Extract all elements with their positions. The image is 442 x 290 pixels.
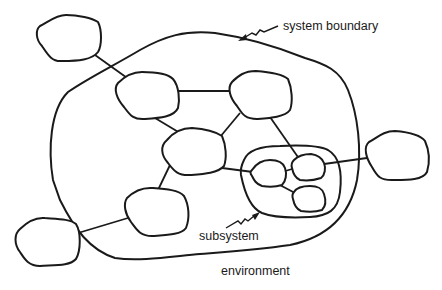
link-sys-bottom-left-to-env-bottom-left: [78, 218, 128, 233]
node-env-bottom-left: [16, 218, 80, 266]
subsystem-pointer: [226, 212, 260, 228]
link-sys-center-to-sub-left: [222, 168, 253, 172]
link-sys-top-right-to-sub-top-right: [270, 117, 300, 160]
link-sys-center-to-sys-bottom-left: [158, 165, 170, 190]
node-sys-bottom-left: [125, 188, 189, 236]
system-boundary-pointer: [238, 26, 278, 41]
label-subsystem: subsystem: [199, 229, 259, 243]
node-sub-bottom-right: [292, 186, 325, 212]
link-sub-top-right-to-env-right: [324, 158, 367, 164]
node-env-right: [366, 131, 429, 180]
arrowhead-icon: [252, 212, 260, 220]
node-env-top-left: [37, 15, 101, 61]
node-sys-top-left: [116, 72, 179, 119]
system-diagram: system boundary subsystem environment: [0, 0, 442, 290]
node-sys-top-right: [230, 71, 292, 119]
link-sys-top-right-to-sys-center: [220, 113, 240, 137]
link-sys-top-left-to-sys-center: [155, 118, 180, 133]
label-environment: environment: [221, 264, 290, 278]
node-sys-center: [162, 128, 226, 175]
node-sub-left: [251, 160, 287, 187]
label-system-boundary: system boundary: [283, 19, 379, 33]
node-sub-top-right: [292, 154, 325, 180]
